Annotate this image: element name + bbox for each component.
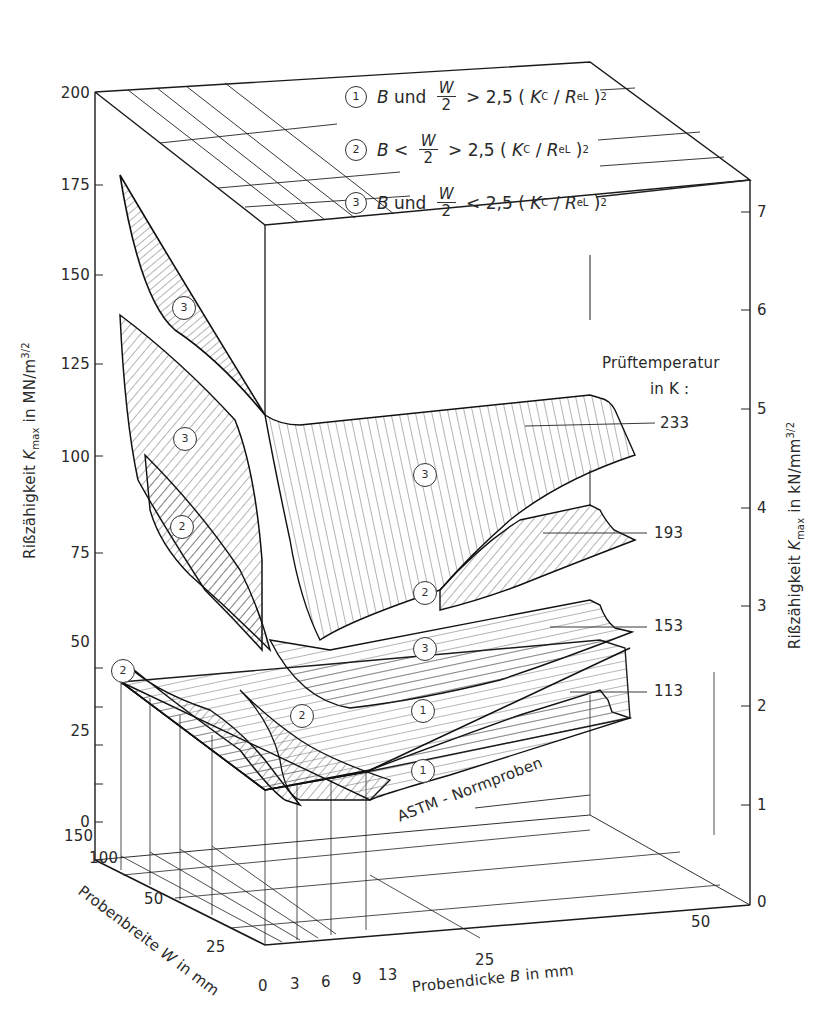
temp-label-153: 153	[654, 617, 683, 635]
region-badge-2: 2	[170, 515, 194, 539]
fraction: W2	[437, 186, 456, 219]
b-tick-50: 50	[691, 913, 711, 931]
w-tick-50: 50	[144, 890, 164, 908]
right-tick-5: 5	[757, 400, 767, 418]
right-tick-3: 3	[757, 597, 767, 615]
left-tick-200: 200	[50, 84, 90, 102]
right-tick-4: 4	[757, 499, 767, 517]
legend-item-2: 2 B < W2 > 2,5 ( KC / ReL )2	[345, 133, 589, 166]
w-tick-150: 150	[64, 827, 93, 845]
left-axis-title: Rißzähigkeit Kmax in MN/m3/2	[20, 301, 41, 601]
left-tick-75: 75	[50, 544, 90, 562]
region-badge-3: 3	[172, 296, 196, 320]
legend-badge: 1	[345, 86, 367, 108]
right-tick-6: 6	[757, 301, 767, 319]
region-badge-2: 2	[290, 704, 314, 728]
legend-badge: 2	[345, 139, 367, 161]
right-axis-title: Rißzähigkeit Kmax in kN/mm3/2	[785, 386, 806, 686]
right-axis-ticks	[741, 212, 750, 805]
w-tick-100: 100	[89, 849, 118, 867]
region-badge-3: 3	[173, 427, 197, 451]
right-tick-7: 7	[757, 203, 767, 221]
right-tick-1: 1	[757, 796, 767, 814]
left-tick-25: 25	[50, 722, 90, 740]
b-tick-6: 6	[321, 973, 331, 991]
left-tick-175: 175	[50, 176, 90, 194]
b-tick-3: 3	[290, 975, 300, 993]
temp-label-113: 113	[654, 682, 683, 700]
b-tick-13: 13	[378, 966, 398, 984]
legend-item-3: 3 B und W2 < 2,5 ( KC / ReL )2	[345, 186, 607, 219]
left-tick-50: 50	[50, 633, 90, 651]
region-badge-2: 2	[413, 581, 437, 605]
fraction: W2	[419, 133, 438, 166]
region-badge-3: 3	[413, 463, 437, 487]
region-badge-2: 2	[111, 659, 135, 683]
fraction: W2	[437, 80, 456, 113]
right-tick-2: 2	[757, 697, 767, 715]
w-tick-25: 25	[206, 938, 226, 956]
temp-label-193: 193	[654, 524, 683, 542]
b-tick-9: 9	[352, 970, 362, 988]
legend-item-1: 1 B und W2 > 2,5 ( KC / ReL )2	[345, 80, 607, 113]
region-badge-1: 1	[411, 759, 435, 783]
legend-badge: 3	[345, 192, 367, 214]
region-badge-1: 1	[411, 699, 435, 723]
temp-title-line2: in K :	[650, 380, 689, 398]
temp-title-line1: Prüftemperatur	[602, 354, 720, 372]
left-axis-ticks	[95, 185, 103, 860]
region-badge-3: 3	[413, 637, 437, 661]
b-tick-25: 25	[475, 951, 495, 969]
right-tick-0: 0	[757, 893, 767, 911]
w-tick-0: 0	[258, 977, 268, 995]
left-tick-100: 100	[50, 448, 90, 466]
left-tick-150: 150	[50, 266, 90, 284]
temp-label-233: 233	[660, 414, 689, 432]
left-tick-125: 125	[50, 355, 90, 373]
